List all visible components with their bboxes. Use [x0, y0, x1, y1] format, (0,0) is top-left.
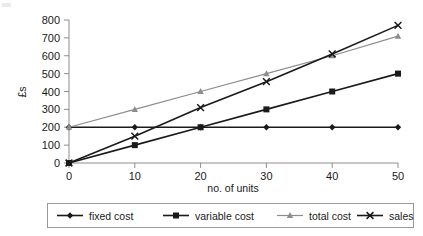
y-tick-label: 300	[42, 103, 60, 115]
y-tick-label: 700	[42, 32, 60, 44]
diamond-marker	[263, 124, 269, 130]
series-line	[69, 36, 398, 127]
y-axis-ticks	[64, 20, 69, 163]
y-axis-tick-labels: 0100200300400500600700800	[42, 14, 60, 169]
legend: fixed costvariable costtotal costsales	[48, 204, 414, 228]
cross-marker	[131, 133, 138, 140]
axis-group	[69, 20, 398, 163]
y-tick-label: 400	[42, 86, 60, 98]
y-axis-title: £s	[16, 86, 28, 97]
scan-artifact	[2, 3, 11, 7]
y-tick-label: 200	[42, 121, 60, 133]
x-tick-label: 20	[194, 170, 206, 182]
x-tick-label: 30	[260, 170, 272, 182]
legend-label: sales	[389, 210, 414, 222]
series-variable-cost	[66, 71, 401, 166]
data-series-group	[66, 22, 402, 166]
square-marker	[198, 124, 204, 130]
legend-label: variable cost	[195, 210, 254, 222]
series-total-cost	[66, 33, 401, 130]
y-tick-label: 800	[42, 14, 60, 26]
square-marker	[263, 106, 269, 112]
diamond-marker	[132, 124, 138, 130]
triangle-marker	[395, 33, 401, 39]
legend-label: total cost	[309, 210, 351, 222]
x-axis-ticks	[69, 163, 398, 168]
cross-marker	[263, 78, 270, 85]
series-line	[69, 25, 398, 163]
x-axis-tick-labels: 01020304050	[66, 170, 404, 182]
square-marker	[395, 71, 401, 77]
square-marker	[173, 213, 179, 219]
x-tick-label: 0	[66, 170, 72, 182]
cross-marker	[197, 104, 204, 111]
cross-marker	[395, 22, 402, 29]
diamond-marker	[329, 124, 335, 130]
chart-container: 0100200300400500600700800 01020304050 £s…	[0, 0, 423, 236]
y-tick-label: 100	[42, 139, 60, 151]
series-sales	[66, 22, 402, 166]
line-chart: 0100200300400500600700800 01020304050 £s…	[0, 0, 423, 236]
y-tick-label: 600	[42, 50, 60, 62]
series-fixed-cost	[66, 124, 401, 130]
square-marker	[132, 142, 138, 148]
diamond-marker	[395, 124, 401, 130]
y-tick-label: 0	[54, 157, 60, 169]
square-marker	[329, 89, 335, 95]
y-tick-label: 500	[42, 68, 60, 80]
x-tick-label: 50	[392, 170, 404, 182]
x-tick-label: 40	[326, 170, 338, 182]
series-line	[69, 74, 398, 163]
x-axis-title: no. of units	[207, 182, 258, 194]
x-tick-label: 10	[129, 170, 141, 182]
legend-label: fixed cost	[89, 210, 133, 222]
